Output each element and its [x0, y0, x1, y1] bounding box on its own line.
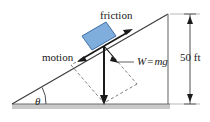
angle-label: θ: [35, 96, 40, 107]
inclined-plane-diagram: friction motion W=mg 50 ft θ: [0, 0, 210, 122]
weight-symbol: W: [137, 55, 146, 67]
block: [82, 22, 116, 50]
height-dimension-label: 50 ft: [180, 52, 200, 63]
weight-expression: mg: [154, 55, 167, 67]
friction-label: friction: [100, 10, 132, 21]
angle-arc: [42, 88, 46, 105]
normal-component-vector: [104, 46, 119, 63]
weight-vector: [100, 46, 108, 105]
weight-label: W=mg: [137, 56, 168, 67]
motion-label: motion: [42, 52, 73, 63]
